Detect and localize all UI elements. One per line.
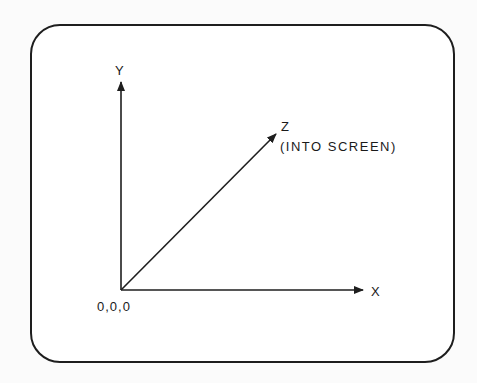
y-axis-label: Y <box>115 64 125 77</box>
x-axis-label: X <box>371 285 381 298</box>
z-axis-arrow <box>121 134 276 290</box>
z-axis-label: Z <box>281 120 290 133</box>
axes-diagram <box>0 0 477 383</box>
origin-label: 0,0,0 <box>97 300 131 313</box>
z-axis-sublabel: (INTO SCREEN) <box>280 140 397 153</box>
